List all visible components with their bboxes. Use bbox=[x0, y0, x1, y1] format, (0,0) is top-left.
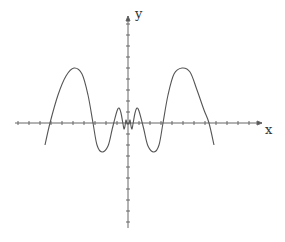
axes bbox=[15, 16, 262, 228]
y-axis-label: y bbox=[135, 6, 142, 21]
x-axis-label: x bbox=[265, 122, 272, 137]
plot-area bbox=[0, 0, 285, 242]
function-curve bbox=[45, 68, 214, 152]
